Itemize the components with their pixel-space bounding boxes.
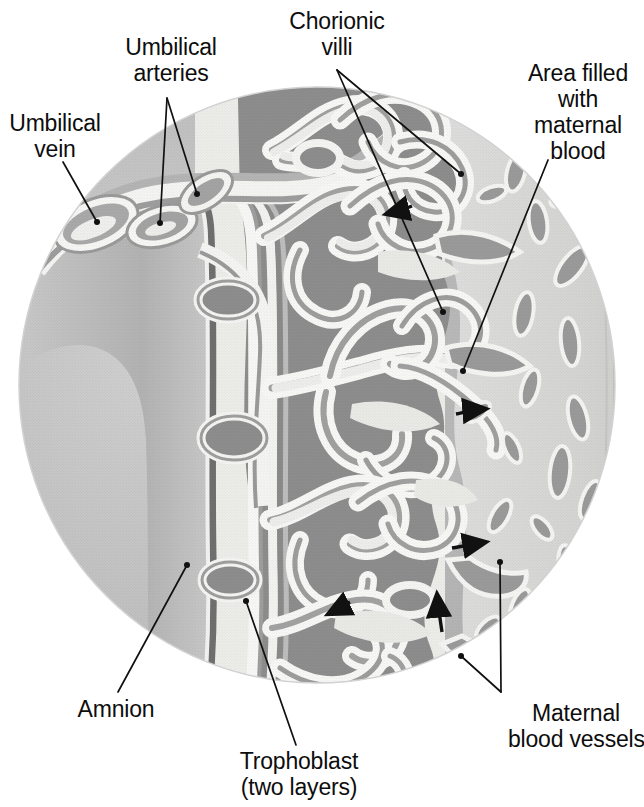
leader-dot-umbilical-arteries-2 [194, 191, 200, 197]
label-chorionic-villi: Chorionicvilli [274, 8, 400, 60]
leader-dot-umbilical-vein-1 [94, 219, 100, 225]
label-chorionic-villi-line-1: Chorionic [274, 8, 400, 34]
leader-dot-chorionic-villi-2 [440, 309, 446, 315]
leader-dot-amnion-1 [184, 562, 190, 568]
label-chorionic-villi-line-2: villi [274, 34, 400, 60]
leader-dot-trophoblast-1 [243, 598, 249, 604]
label-area-filled-with-maternal-blood-line-4: blood [516, 138, 640, 164]
label-amnion: Amnion [70, 696, 162, 722]
label-umbilical-vein-line-2: vein [5, 136, 105, 162]
label-area-filled-with-maternal-blood-line-3: maternal [516, 112, 640, 138]
leader-dot-area-filled-with-maternal-blood-1 [460, 368, 466, 374]
label-area-filled-with-maternal-blood-line-2: with [516, 86, 640, 112]
label-umbilical-arteries-line-2: arteries [110, 60, 232, 86]
label-area-filled-with-maternal-blood-line-1: Area filled [516, 60, 640, 86]
leader-dot-maternal-blood-vessels-1 [497, 559, 503, 565]
label-umbilical-arteries: Umbilicalarteries [110, 34, 232, 86]
leader-maternal-blood-vessels-2 [461, 656, 501, 692]
label-area-filled-with-maternal-blood: Area filledwithmaternalblood [516, 60, 640, 164]
leader-dot-maternal-blood-vessels-2 [458, 653, 464, 659]
leader-dot-chorionic-villi-1 [458, 171, 464, 177]
label-maternal-blood-vessels-line-2: blood vessels [508, 726, 644, 752]
label-trophoblast-line-2: (two layers) [229, 774, 369, 800]
label-maternal-blood-vessels: Maternalblood vessels [508, 700, 644, 752]
leader-dot-umbilical-arteries-1 [157, 220, 163, 226]
label-umbilical-arteries-line-1: Umbilical [110, 34, 232, 60]
label-trophoblast-line-1: Trophoblast [229, 748, 369, 774]
label-maternal-blood-vessels-line-1: Maternal [508, 700, 644, 726]
label-trophoblast: Trophoblast(two layers) [229, 748, 369, 800]
label-umbilical-vein: Umbilicalvein [5, 110, 105, 162]
leader-maternal-blood-vessels-1 [500, 562, 501, 692]
label-umbilical-vein-line-1: Umbilical [5, 110, 105, 136]
label-amnion-line-1: Amnion [70, 696, 162, 722]
